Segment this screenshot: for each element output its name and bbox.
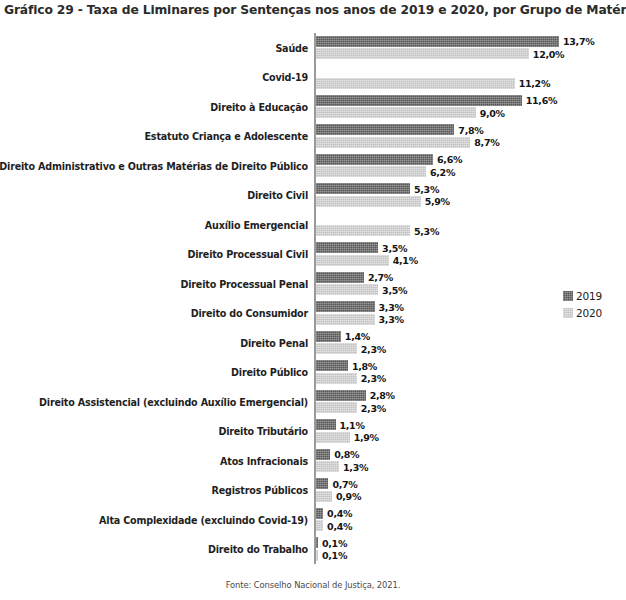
bar-group-2020: 1,3% [316, 461, 626, 472]
row-bars: 0,7%0,9% [316, 476, 626, 506]
bar-group-2019: 1,8% [316, 360, 626, 371]
bar-value-label: 3,5% [382, 242, 407, 253]
bar-2019[interactable] [316, 360, 348, 371]
bar-value-label: 1,8% [352, 360, 377, 371]
bar-2019[interactable] [316, 478, 328, 489]
bar-2019[interactable] [316, 301, 375, 312]
chart-row: Estatuto Criança e Adolescente7,8%8,7% [0, 122, 626, 152]
chart-row: Direito Processual Penal2,7%3,5% [0, 269, 626, 299]
bar-2020[interactable] [316, 137, 470, 148]
bar-value-label: 0,7% [332, 478, 357, 489]
chart-row: Direito à Educação11,6%9,0% [0, 92, 626, 122]
category-label: Registros Públicos [212, 485, 308, 496]
bar-group-2019: 13,7% [316, 36, 626, 47]
bar-group-2019: 2,7% [316, 272, 626, 283]
category-label: Direito à Educação [210, 101, 308, 112]
category-label: Alta Complexidade (excluindo Covid-19) [99, 514, 308, 525]
bar-2020[interactable] [316, 107, 476, 118]
row-bars: 1,1%1,9% [316, 417, 626, 447]
bar-group-2020: 5,3% [316, 225, 626, 236]
bar-value-label: 6,2% [430, 166, 455, 177]
category-label: Direito Civil [247, 190, 308, 201]
bar-2019[interactable] [316, 419, 336, 430]
bar-value-label: 8,7% [474, 137, 499, 148]
bar-group-2019: 11,6% [316, 95, 626, 106]
bar-2019[interactable] [316, 272, 364, 283]
bar-group-2020: 8,7% [316, 137, 626, 148]
bar-group-2019: 0,4% [316, 508, 626, 519]
bar-value-label: 11,6% [526, 95, 557, 106]
legend-item-2020[interactable]: 2020 [563, 305, 623, 320]
bar-2020[interactable] [316, 432, 350, 443]
chart-title: Gráfico 29 - Taxa de Liminares por Sente… [4, 2, 622, 18]
bar-2020[interactable] [316, 166, 426, 177]
category-label: Direito Tributário [218, 426, 308, 437]
bar-2020[interactable] [316, 550, 318, 561]
bar-group-2019: 6,6% [316, 154, 626, 165]
bar-group-2020: 0,9% [316, 491, 626, 502]
bar-group-2020: 2,3% [316, 402, 626, 413]
category-label: Covid-19 [262, 72, 308, 83]
bar-2019[interactable] [316, 154, 433, 165]
row-bars: 1,4%2,3% [316, 328, 626, 358]
category-label: Saúde [275, 42, 308, 53]
bar-value-label: 5,9% [425, 196, 450, 207]
bar-value-label: 4,1% [393, 255, 418, 266]
bar-group-2019: 0,7% [316, 478, 626, 489]
legend-swatch-2020-icon [563, 308, 573, 318]
row-bars: 6,6%6,2% [316, 151, 626, 181]
bar-2019[interactable] [316, 508, 323, 519]
bar-2020[interactable] [316, 343, 357, 354]
bar-group-2020: 11,2% [316, 78, 626, 89]
bar-group-2019: 7,8% [316, 124, 626, 135]
bar-value-label: 2,7% [368, 272, 393, 283]
bar-2020[interactable] [316, 225, 410, 236]
category-label: Auxílio Emergencial [205, 219, 308, 230]
bar-2020[interactable] [316, 520, 323, 531]
bar-2020[interactable] [316, 255, 389, 266]
bar-2019[interactable] [316, 331, 341, 342]
category-label: Direito Penal [240, 337, 308, 348]
row-bars: 0,4%0,4% [316, 505, 626, 535]
row-bars: 11,6%9,0% [316, 92, 626, 122]
chart-row: Covid-1911,2% [0, 63, 626, 93]
bar-2019[interactable] [316, 36, 559, 47]
category-label: Direito do Trabalho [208, 544, 308, 555]
category-label: Direito Administrativo e Outras Matérias… [0, 160, 308, 171]
bar-value-label: 3,3% [379, 301, 404, 312]
bar-group-2020: 5,9% [316, 196, 626, 207]
bar-2019[interactable] [316, 537, 318, 548]
bar-value-label: 2,3% [361, 402, 386, 413]
bar-2020[interactable] [316, 402, 357, 413]
row-bars: 11,2% [316, 63, 626, 93]
bar-2019[interactable] [316, 124, 454, 135]
bar-2020[interactable] [316, 373, 357, 384]
chart-row: Direito Penal1,4%2,3% [0, 328, 626, 358]
bar-group-2019: 0,8% [316, 449, 626, 460]
bar-value-label: 0,1% [322, 537, 347, 548]
bar-2019[interactable] [316, 449, 330, 460]
bar-2020[interactable] [316, 284, 378, 295]
bar-2020[interactable] [316, 78, 515, 89]
bar-value-label: 6,6% [437, 154, 462, 165]
bar-2020[interactable] [316, 48, 529, 59]
bar-value-label: 12,0% [533, 48, 564, 59]
bar-value-label: 9,0% [480, 107, 505, 118]
chart-legend: 2019 2020 [563, 288, 623, 322]
row-bars: 0,1%0,1% [316, 535, 626, 565]
bar-group-2019: 5,3% [316, 183, 626, 194]
bar-2020[interactable] [316, 461, 339, 472]
legend-item-2019[interactable]: 2019 [563, 288, 623, 303]
category-label: Direito Assistencial (excluindo Auxílio … [39, 396, 308, 407]
bar-2020[interactable] [316, 314, 375, 325]
bar-2020[interactable] [316, 491, 332, 502]
bar-2019[interactable] [316, 390, 366, 401]
bar-2019[interactable] [316, 95, 522, 106]
bar-2019[interactable] [316, 183, 410, 194]
bar-group-2020: 6,2% [316, 166, 626, 177]
chart-row: Direito do Trabalho0,1%0,1% [0, 535, 626, 565]
legend-swatch-2019-icon [563, 291, 573, 301]
bar-2019[interactable] [316, 242, 378, 253]
bar-2020[interactable] [316, 196, 421, 207]
row-bars: 2,8%2,3% [316, 387, 626, 417]
